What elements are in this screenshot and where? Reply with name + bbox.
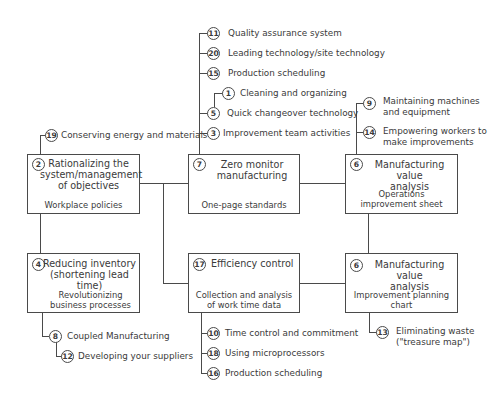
box-title: Manufacturing value analysis	[364, 259, 455, 292]
box-subtitle: Workplace policies	[28, 200, 139, 210]
connector-line	[40, 135, 41, 154]
step-number-badge: 14	[363, 126, 376, 139]
step-number-badge: 11	[207, 27, 220, 40]
branch-label: Conserving energy and materials	[61, 130, 207, 141]
step-number-badge: 5	[207, 107, 220, 120]
connector-line	[300, 183, 345, 184]
step-number-badge: 20	[207, 47, 220, 60]
step-number-badge: 17	[193, 258, 206, 271]
branch-label: Leading technology/site technology	[228, 48, 385, 59]
box-efficiency-control: 17 Efficiency control Collection and ana…	[188, 253, 300, 313]
connector-line	[56, 342, 57, 356]
step-number-badge: 12	[61, 350, 74, 363]
step-number-badge: 1	[222, 87, 235, 100]
connector-line	[42, 336, 49, 337]
connector-line	[163, 183, 164, 283]
branch-label: Cleaning and organizing	[240, 88, 347, 99]
box-value-analysis-planning: 6 Manufacturing value analysis Improveme…	[345, 253, 458, 313]
branch-label: Empowering workers to make improvements	[383, 126, 487, 148]
step-number-badge: 19	[45, 129, 58, 142]
step-number-badge: 9	[363, 97, 376, 110]
box-subtitle: One-page standards	[189, 200, 299, 210]
box-title: Rationalizing the system/management of o…	[40, 158, 137, 191]
step-number-badge: 16	[207, 367, 220, 380]
connector-line	[300, 283, 345, 284]
step-number-badge: 6	[350, 158, 363, 171]
box-zero-monitor: 7 Zero monitor manufacturing One-page st…	[188, 154, 300, 214]
branch-label: Quality assurance system	[228, 28, 342, 39]
box-subtitle: Improvement planning chart	[346, 290, 457, 310]
box-title: Manufacturing value analysis	[364, 159, 455, 192]
connector-line	[40, 213, 41, 253]
connector-line	[201, 313, 202, 373]
connector-line	[163, 283, 188, 284]
box-title: Reducing inventory (shortening lead time…	[42, 258, 137, 291]
branch-label: Production scheduling	[228, 68, 325, 79]
box-reducing-inventory: 4 Reducing inventory (shortening lead ti…	[27, 253, 140, 313]
branch-label: Production scheduling	[225, 368, 322, 379]
branch-label: Developing your suppliers	[78, 351, 193, 362]
step-number-badge: 10	[207, 327, 220, 340]
step-number-badge: 6	[350, 259, 363, 272]
branch-label: Improvement team activities	[223, 128, 350, 139]
box-title: Zero monitor manufacturing	[207, 159, 297, 181]
box-rationalizing: 2 Rationalizing the system/management of…	[27, 154, 140, 214]
branch-label: Eliminating waste ("treasure map")	[396, 326, 474, 348]
connector-line	[42, 313, 43, 336]
box-value-analysis-operations: 6 Manufacturing value analysis Operation…	[345, 154, 458, 214]
step-number-badge: 18	[207, 347, 220, 360]
connector-line	[369, 313, 370, 332]
branch-label: Using microprocessors	[225, 348, 324, 359]
step-number-badge: 7	[193, 158, 206, 171]
step-number-badge: 8	[49, 330, 62, 343]
connector-line	[214, 93, 215, 107]
box-subtitle: Collection and analysis of work time dat…	[189, 290, 299, 310]
box-title: Efficiency control	[211, 258, 294, 269]
step-number-badge: 13	[376, 326, 389, 339]
step-number-badge: 3	[207, 127, 220, 140]
step-number-badge: 15	[207, 67, 220, 80]
branch-label: Coupled Manufacturing	[67, 331, 170, 342]
connector-line	[368, 213, 369, 253]
box-subtitle: Revolutionizing business processes	[42, 290, 139, 310]
branch-label: Quick changeover technology	[227, 108, 358, 119]
branch-label: Maintaining machines and equipment	[383, 96, 480, 118]
branch-label: Time control and commitment	[225, 328, 358, 339]
box-subtitle: Operations improvement sheet	[346, 189, 457, 209]
